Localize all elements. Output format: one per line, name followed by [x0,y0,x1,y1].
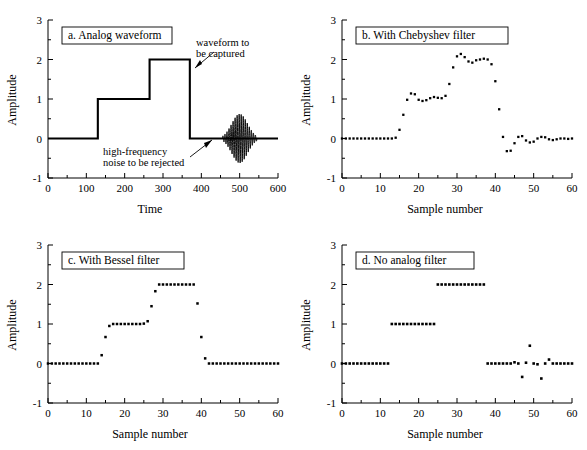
data-point [475,59,477,61]
data-point [402,323,405,326]
data-point [490,63,492,65]
data-point [563,362,566,365]
x-tick-label: 20 [119,407,131,419]
y-tick-label: 0 [331,133,337,145]
x-tick-label: 30 [452,407,464,419]
y-tick-label: 3 [331,239,337,251]
waveform-annotation-line2: be captured [196,48,245,59]
data-point [429,97,431,99]
data-point [529,344,532,347]
y-tick-label: 3 [37,14,43,26]
y-tick-label: 2 [331,54,337,66]
data-point [169,283,172,286]
data-point [395,137,397,139]
data-point [467,283,470,286]
data-point [483,283,486,286]
data-point [47,362,50,365]
data-point [345,137,347,139]
data-point [212,362,215,365]
panel-b-xlabel: Sample number [407,202,483,216]
data-point [555,362,558,365]
data-point [567,362,570,365]
data-point [108,325,111,328]
data-point [123,323,126,326]
data-point [231,362,234,365]
data-point [464,56,466,58]
data-point [387,137,389,139]
data-point [544,362,547,365]
data-point [352,362,355,365]
noise-annotation-line1: high-frequency [103,146,168,157]
panel-a-svg: 0100200300400500600-10123 waveform to be… [0,0,293,225]
data-point [254,362,257,365]
data-point [379,362,382,365]
data-point [525,139,527,141]
data-point [452,66,454,68]
x-tick-label: 50 [528,407,540,419]
data-point [571,362,574,365]
data-point [100,354,103,357]
data-point [391,137,393,139]
data-point [552,139,554,141]
panel-c-svg: 0102030405060-10123 c. With Bessel filte… [0,225,293,450]
data-point [85,362,88,365]
data-point [425,99,427,101]
data-point [513,142,515,144]
panel-b: 0102030405060-10123 b. With Chebyshev fi… [293,0,587,225]
data-point [429,323,432,326]
data-point [421,100,423,102]
data-point [444,283,447,286]
data-point [97,362,100,365]
data-point [154,290,157,293]
data-point [246,362,249,365]
data-point [502,136,504,138]
data-point [559,137,561,139]
data-point [417,323,420,326]
x-tick-label: 50 [234,407,246,419]
data-point [177,283,180,286]
data-point [238,362,241,365]
data-point [131,323,134,326]
data-point [146,320,149,323]
data-point [208,362,211,365]
panel-b-title: b. With Chebyshev filter [362,29,475,42]
data-point [360,362,363,365]
panel-d-xlabel: Sample number [407,427,483,441]
data-point [139,323,142,326]
panel-c-title: c. With Bessel filter [68,254,159,266]
data-point [406,99,408,101]
data-point [51,362,54,365]
data-point [486,362,489,365]
data-point [490,362,493,365]
data-point [127,323,130,326]
data-point [166,283,169,286]
data-point [460,283,463,286]
data-point [525,361,528,364]
data-point [494,362,497,365]
data-point [513,361,516,364]
data-point [341,137,343,139]
data-point [181,283,184,286]
noise-annotation-line2: noise to be rejected [103,157,185,168]
x-tick-label: 0 [339,407,345,419]
x-tick-label: 500 [231,182,248,194]
data-point [391,323,394,326]
data-point [265,362,268,365]
data-point [441,97,443,99]
data-point [356,362,359,365]
data-point [250,362,253,365]
y-tick-label: 2 [37,279,43,291]
x-tick-label: 10 [81,407,93,419]
data-point [540,377,543,380]
data-point [540,136,542,138]
data-point [371,362,374,365]
data-point [192,283,195,286]
panel-a-xlabel: Time [138,202,163,216]
y-tick-label: -1 [327,397,336,409]
data-point [204,357,207,360]
data-point [116,323,119,326]
data-point [414,323,417,326]
data-point [544,136,546,138]
panel-c-xlabel: Sample number [112,427,188,441]
data-point [185,283,188,286]
